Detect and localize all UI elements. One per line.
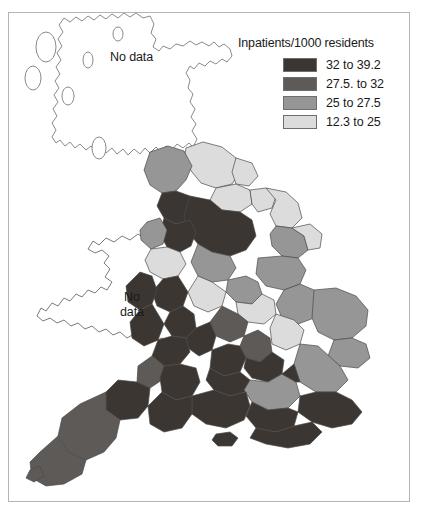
legend-swatch-class-1 <box>283 58 317 72</box>
map-county <box>312 288 368 340</box>
map-county <box>232 158 258 186</box>
legend-title: Inpatients/1000 residents <box>238 36 410 50</box>
legend-items: 32 to 39.2 27.5. to 32 25 to 27.5 12.3 t… <box>283 57 410 130</box>
map-county <box>148 392 192 432</box>
legend-item[interactable]: 25 to 27.5 <box>283 95 410 111</box>
legend-item[interactable]: 27.5. to 32 <box>283 76 410 92</box>
legend-swatch-class-4 <box>283 115 317 129</box>
legend-swatch-class-3 <box>283 96 317 110</box>
map-county <box>298 392 362 428</box>
legend-item[interactable]: 12.3 to 25 <box>283 114 410 130</box>
legend-label-class-2: 27.5. to 32 <box>326 77 384 91</box>
map-county <box>212 432 238 446</box>
legend-label-class-3: 25 to 27.5 <box>326 96 381 110</box>
map-county <box>184 142 240 188</box>
legend-label-class-1: 32 to 39.2 <box>326 58 381 72</box>
map-legend: Inpatients/1000 residents 32 to 39.2 27.… <box>238 36 410 133</box>
map-county <box>106 380 150 420</box>
map-county <box>188 276 226 312</box>
map-region-scotland-outline <box>52 13 232 155</box>
legend-swatch-class-2 <box>283 77 317 91</box>
map-county <box>192 390 250 428</box>
legend-item[interactable]: 32 to 39.2 <box>283 57 410 73</box>
map-county <box>144 146 192 193</box>
figure-container: Inpatients/1000 residents 32 to 39.2 27.… <box>0 0 421 515</box>
legend-label-class-4: 12.3 to 25 <box>326 115 381 129</box>
no-data-label-wales: No data <box>120 290 144 320</box>
no-data-label-scotland: No data <box>110 50 153 65</box>
